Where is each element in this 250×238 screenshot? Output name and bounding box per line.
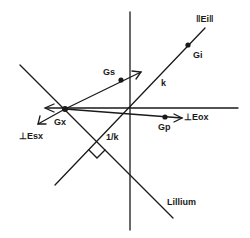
label-k: k	[161, 79, 166, 88]
label-gi: Gi	[193, 51, 203, 60]
lillium-line	[20, 65, 173, 218]
point-gx	[62, 106, 68, 112]
label-gp: Gp	[158, 123, 171, 132]
label-gs: Gs	[103, 68, 115, 77]
vector-diagram	[0, 0, 250, 238]
label-esx: ⊥Esx	[19, 132, 43, 141]
label-e-parallel: ‖Ei‖	[196, 15, 213, 24]
point-gi	[185, 42, 190, 47]
label-inv-k: 1/k	[106, 133, 119, 142]
label-eox: ⊥Eox	[184, 113, 209, 122]
point-gp	[162, 114, 167, 119]
right-angle-marker-icon	[89, 150, 105, 158]
label-lillium: Lillium	[167, 198, 196, 207]
point-gs	[118, 77, 123, 82]
gs-arrowhead-icon	[132, 71, 141, 79]
label-gx: Gx	[54, 118, 66, 127]
